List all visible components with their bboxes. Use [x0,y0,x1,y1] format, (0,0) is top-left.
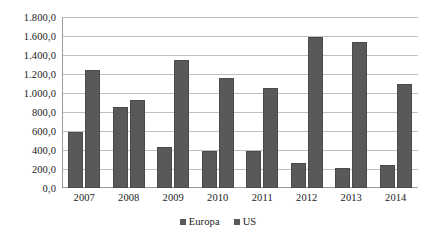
bar-group [151,17,196,188]
bar [219,78,234,188]
bar-group [374,17,419,188]
y-axis-tick-label: 0,0 [43,183,56,194]
chart-legend: EuropaUS [0,216,436,227]
legend-swatch-icon [234,219,240,225]
y-axis-tick-label: 1.400,0 [24,49,56,60]
bar [68,132,83,188]
bar [157,147,172,188]
bar-group [240,17,285,188]
bar [113,107,128,188]
bar [335,168,350,188]
bar [263,88,278,188]
bar [380,165,395,188]
y-axis-tick-labels: 0,0200,0400,0600,0800,01.000,01.200,01.4… [0,17,56,188]
bar-group [196,17,241,188]
plot-area [62,17,418,188]
y-axis-tick-label: 1.800,0 [24,12,56,23]
bar [246,151,261,188]
bar-group [329,17,374,188]
bar [291,163,306,188]
x-axis-tick-label: 2007 [62,192,107,203]
y-axis-tick-label: 1.000,0 [24,87,56,98]
bar [308,37,323,188]
legend-swatch-icon [180,219,186,225]
bar-group [62,17,107,188]
bar [85,70,100,188]
y-axis-tick-label: 1.200,0 [24,69,56,80]
bar [130,100,145,188]
x-axis-tick-label: 2014 [374,192,419,203]
x-axis-tick-label: 2013 [329,192,374,203]
legend-label: Europa [189,216,220,227]
bar-group [285,17,330,188]
x-axis-tick-label: 2012 [285,192,330,203]
legend-item: US [234,216,257,227]
bar [352,42,367,188]
x-axis-tick-labels: 20072008200920102011201220132014 [62,192,418,203]
legend-label: US [243,216,257,227]
y-axis-tick-label: 1.600,0 [24,30,56,41]
x-axis-tick-label: 2009 [151,192,196,203]
bar [202,151,217,188]
y-axis-tick-label: 400,0 [32,145,56,156]
x-axis-tick-label: 2011 [240,192,285,203]
x-axis-tick-label: 2008 [107,192,152,203]
bar-chart: 0,0200,0400,0600,0800,01.000,01.200,01.4… [0,0,436,243]
y-axis-tick-label: 200,0 [32,163,56,174]
y-axis-tick-label: 800,0 [32,107,56,118]
bar [397,84,412,189]
y-axis-tick-label: 600,0 [32,126,56,137]
bar-group [107,17,152,188]
legend-item: Europa [180,216,220,227]
x-axis-tick-label: 2010 [196,192,241,203]
bar [174,60,189,188]
bar-groups [62,17,418,188]
